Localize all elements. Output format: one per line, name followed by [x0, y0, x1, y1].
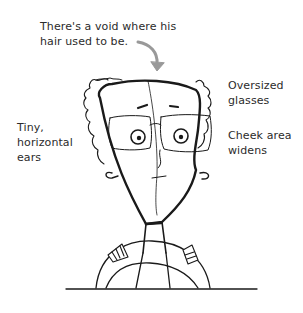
nose: [158, 150, 161, 168]
curved-arrow-icon: [138, 42, 164, 71]
mouth: [152, 176, 166, 178]
eyebrow-right: [170, 106, 178, 107]
hand-right: [183, 245, 198, 264]
ear-left: [106, 172, 118, 178]
hair-right: [196, 80, 211, 148]
character-illustration: [0, 0, 303, 313]
eyebrow-left: [138, 105, 147, 108]
ear-right: [200, 172, 209, 179]
head-outline: [99, 81, 200, 224]
hand-left: [108, 244, 128, 262]
neck: [143, 222, 166, 253]
